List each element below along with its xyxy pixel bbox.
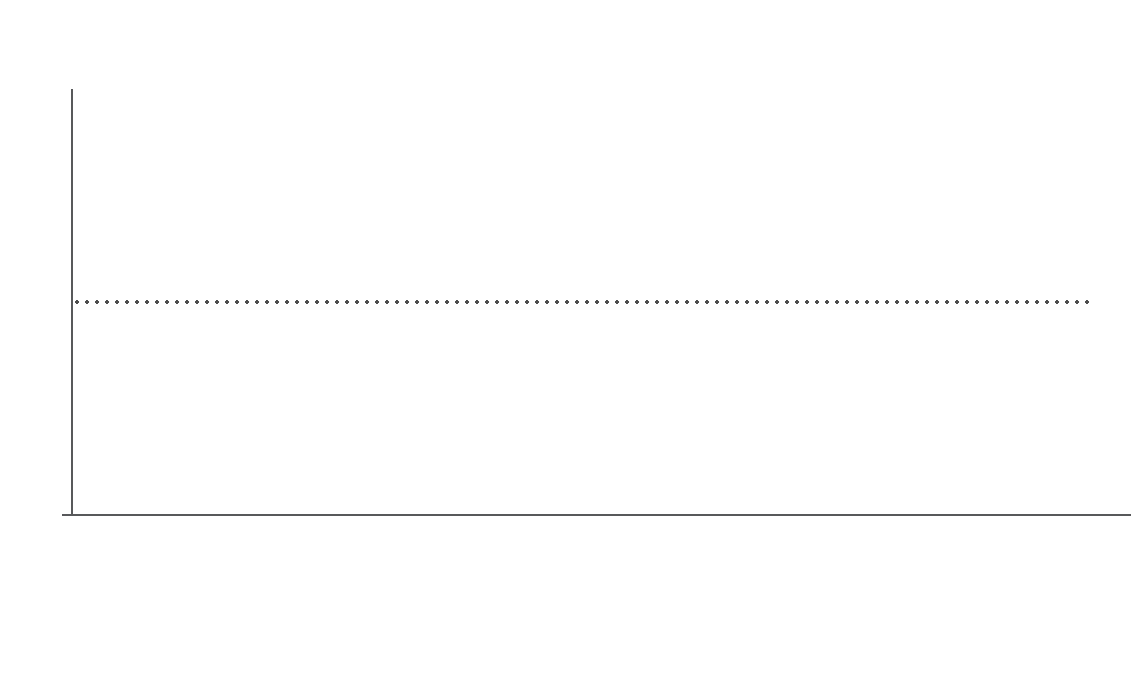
reference-line-50: [72, 300, 1090, 304]
y-axis-line: [71, 89, 73, 516]
x-axis-line: [62, 514, 1131, 516]
